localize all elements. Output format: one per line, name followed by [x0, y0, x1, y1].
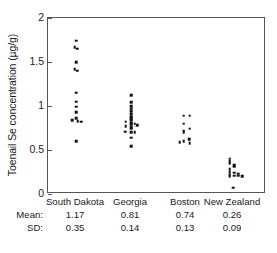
- table-row-mean: Mean:1.170.810.740.26: [0, 209, 277, 222]
- data-point: [130, 136, 133, 139]
- data-point: [75, 140, 78, 143]
- data-point: [229, 175, 232, 178]
- data-point: [241, 175, 244, 178]
- table-row-categories: South DakotaGeorgiaBostonNew Zealand: [0, 196, 277, 209]
- data-point: [130, 131, 133, 134]
- chart-figure: Toenail Se concentration (µg/g) 00.511.5…: [0, 0, 277, 253]
- y-tick-label: 1: [4, 100, 44, 111]
- plot-area: [47, 17, 265, 193]
- data-point: [124, 121, 127, 124]
- data-point: [183, 131, 186, 134]
- data-point: [76, 120, 79, 123]
- table-cell-value: 0.26: [223, 209, 242, 220]
- data-point: [188, 138, 191, 141]
- data-point: [130, 94, 133, 97]
- data-point: [75, 61, 78, 64]
- data-point: [183, 114, 186, 117]
- table-row-header: Mean:: [0, 209, 46, 220]
- data-point: [76, 70, 79, 73]
- table-cell-value: 0.14: [121, 222, 140, 233]
- data-point: [188, 128, 191, 131]
- data-point: [188, 142, 191, 145]
- table-cell-value: 0.81: [121, 209, 140, 220]
- data-point: [233, 165, 236, 168]
- y-tick-label: 2: [4, 12, 44, 23]
- data-point: [133, 131, 136, 134]
- table-cell-value: 0.13: [176, 222, 195, 233]
- y-tick-label: 0.5: [4, 144, 44, 155]
- y-tick-mark: [48, 106, 52, 107]
- data-point: [130, 145, 133, 148]
- data-point: [136, 124, 139, 127]
- data-point: [130, 101, 133, 104]
- data-point: [124, 130, 127, 133]
- data-point: [75, 111, 78, 114]
- data-point: [75, 92, 78, 95]
- y-tick-label: 1.5: [4, 56, 44, 67]
- table-cell-value: 0.35: [66, 222, 85, 233]
- category-label: New Zealand: [204, 196, 261, 207]
- data-point: [124, 125, 127, 128]
- category-label: Boston: [170, 196, 200, 207]
- data-point: [75, 100, 78, 103]
- data-point: [229, 162, 232, 165]
- data-point: [183, 122, 186, 125]
- table-row-header: SD:: [0, 222, 46, 233]
- data-point: [237, 174, 240, 177]
- summary-table: South DakotaGeorgiaBostonNew Zealand Mea…: [0, 196, 277, 235]
- data-point: [75, 106, 78, 109]
- y-tick-mark: [48, 62, 52, 63]
- table-row-sd: SD:0.350.140.130.09: [0, 222, 277, 235]
- data-point: [75, 40, 78, 43]
- data-point: [71, 119, 74, 122]
- data-point: [188, 114, 191, 117]
- data-point: [80, 121, 83, 124]
- table-cell-value: 0.74: [176, 209, 195, 220]
- table-cell-value: 0.09: [223, 222, 242, 233]
- table-cell-value: 1.17: [66, 209, 85, 220]
- data-point: [232, 187, 235, 190]
- data-point: [76, 48, 79, 51]
- y-tick-mark: [48, 18, 52, 19]
- data-point: [178, 141, 181, 144]
- data-point: [233, 174, 236, 177]
- data-point: [130, 128, 133, 131]
- y-tick-mark: [48, 150, 52, 151]
- category-label: South Dakota: [46, 196, 104, 207]
- category-label: Georgia: [113, 196, 147, 207]
- y-tick-mark: [48, 194, 52, 195]
- data-point: [183, 140, 186, 143]
